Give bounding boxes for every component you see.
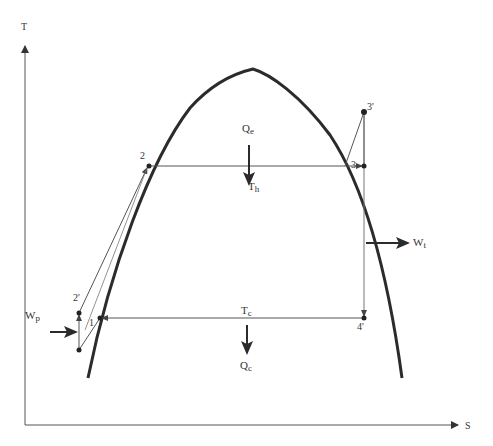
heat-in-label: Qe: [242, 122, 254, 136]
cold-temp-label: Tc: [241, 304, 252, 318]
point-2p: [77, 311, 82, 316]
label-3: 3: [351, 159, 356, 170]
x-axis-label: S: [465, 420, 471, 431]
y-axis-label: T: [21, 21, 27, 32]
point-4p: [362, 316, 367, 321]
turbine-work-label: Wt: [413, 236, 426, 250]
point-3: [362, 164, 367, 169]
heat-out-label: Qc: [240, 359, 252, 373]
line-2p-2: [79, 168, 147, 313]
point-pump-out: [77, 348, 82, 353]
label-2: 2: [140, 150, 145, 161]
ts-diagram: T S 2 3 3' 4' 1 2' Qe Th Tc Qc Wt Wp: [0, 0, 493, 446]
label-2p: 2': [73, 292, 80, 303]
pump-work-label: Wp: [25, 309, 40, 323]
point-2: [147, 164, 152, 169]
line-1-2: [85, 168, 147, 330]
line-3-3p: [345, 112, 364, 166]
label-3p: 3': [367, 101, 374, 112]
hot-temp-label: Th: [248, 180, 260, 194]
label-4p: 4': [357, 321, 364, 332]
point-1: [98, 316, 103, 321]
label-1: 1: [89, 317, 94, 328]
saturation-dome: [88, 69, 402, 378]
